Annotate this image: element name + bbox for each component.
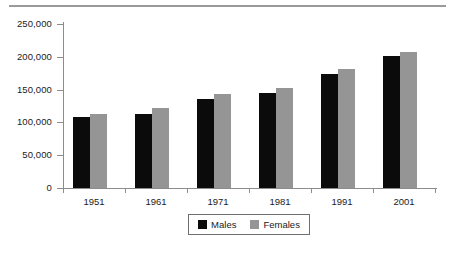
x-axis-tick-label: 2001 [373,196,435,207]
legend-label: Females [263,220,299,230]
legend-label: Males [211,220,236,230]
x-axis-tick [435,188,436,193]
y-axis-tick-label: 0 [47,183,52,193]
bar-males-2001 [383,56,400,188]
gray-square-swatch [250,220,259,229]
y-axis-tick-label: 50,000 [22,150,52,160]
x-axis-tick [311,188,312,193]
bar-males-1991 [321,74,338,188]
legend-entry-males: Males [198,220,236,230]
x-axis-tick-label: 1951 [63,196,125,207]
chart-legend: MalesFemales [188,214,310,235]
x-axis-tick-label: 1961 [125,196,187,207]
top-horizontal-rule [9,5,446,7]
bar-females-1991 [338,69,355,188]
x-axis-tick [63,188,64,193]
y-axis-tick-label: 100,000 [17,117,52,127]
bar-males-1961 [135,114,152,188]
legend-entry-females: Females [250,220,299,230]
bar-males-1971 [197,99,214,188]
bar-females-2001 [400,52,417,188]
x-axis-tick [125,188,126,193]
bar-chart-figure: 050,000100,000150,000200,000250,000 1951… [0,0,453,257]
y-axis-tick-label: 150,000 [17,85,52,95]
bar-females-1971 [214,94,231,188]
bar-males-1981 [259,93,276,188]
bar-females-1981 [276,88,293,188]
y-axis-tick-label: 250,000 [17,19,52,29]
plot-area [63,24,435,188]
bar-females-1951 [90,114,107,188]
bar-females-1961 [152,108,169,188]
bar-males-1951 [73,117,90,188]
black-square-swatch [198,220,207,229]
x-axis-tick [249,188,250,193]
x-axis-tick [373,188,374,193]
x-axis-tick-label: 1971 [187,196,249,207]
x-axis-line [57,188,437,189]
x-axis-tick [187,188,188,193]
y-axis-tick-label: 200,000 [17,52,52,62]
x-axis-tick-label: 1991 [311,196,373,207]
x-axis-tick-label: 1981 [249,196,311,207]
